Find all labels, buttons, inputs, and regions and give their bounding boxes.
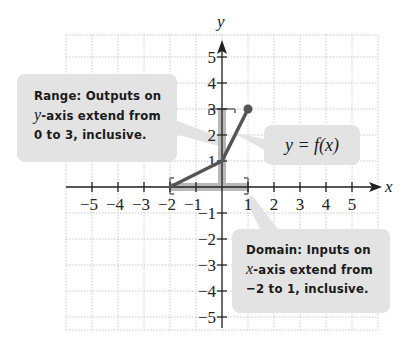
y-tick-label: 2	[208, 126, 217, 145]
y-tick-label: −4	[198, 282, 217, 301]
function-label-callout: y = f(x)	[264, 125, 360, 165]
x-tick-label: −2	[158, 195, 176, 214]
y-tick-label: 4	[208, 74, 217, 93]
domain-callout-line3: −2 to 1, inclusive.	[246, 279, 390, 298]
x-tick-label: −4	[106, 195, 125, 214]
x-tick-label: 1	[244, 195, 253, 214]
y-tick-label: −5	[198, 308, 216, 327]
domain-callout: Domain: Inputs on x-axis extend from −2 …	[232, 229, 390, 313]
y-tick-label: −2	[198, 230, 216, 249]
y-tick-label: 3	[208, 100, 217, 119]
range-callout-line1: Range: Outputs on	[34, 86, 177, 105]
range-line2-text: -axis extend from	[41, 108, 161, 123]
x-tick-label: 5	[348, 195, 357, 214]
range-callout: Range: Outputs on y-axis extend from 0 t…	[17, 74, 177, 162]
x-tick-label: 4	[322, 195, 331, 214]
closed-endpoint	[244, 105, 253, 114]
x-tick-label: −5	[80, 195, 98, 214]
x-tick-label: 3	[296, 195, 305, 214]
y-tick-label: −3	[198, 256, 216, 275]
range-callout-line2: y-axis extend from	[34, 105, 177, 125]
y-tick-label: 5	[208, 48, 217, 67]
y-axis-label: y	[215, 12, 225, 31]
y-tick-label: −1	[198, 204, 216, 223]
domain-callout-line1: Domain: Inputs on	[246, 240, 390, 259]
function-graph	[170, 109, 248, 187]
x-axis-label: x	[384, 177, 393, 196]
range-callout-line3: 0 to 3, inclusive.	[34, 125, 177, 144]
x-tick-label: 2	[270, 195, 279, 214]
x-tick-label: −3	[132, 195, 150, 214]
domain-callout-line2: x-axis extend from	[246, 259, 390, 279]
domain-line2-text: -axis extend from	[253, 262, 373, 277]
